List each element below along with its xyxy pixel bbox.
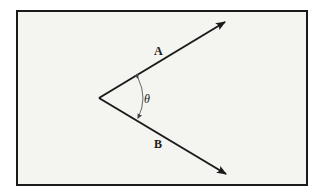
diagram-frame xyxy=(17,11,307,185)
vector-b-label: B xyxy=(154,137,162,151)
vector-a-label: A xyxy=(154,44,163,58)
vector-angle-diagram: A B θ xyxy=(0,0,323,196)
angle-theta-label: θ xyxy=(144,92,150,106)
